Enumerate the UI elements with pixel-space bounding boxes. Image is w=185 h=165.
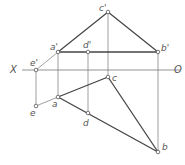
- point-c-prime: [106, 10, 110, 14]
- edge-a-b: [58, 97, 158, 152]
- point-c: [106, 75, 110, 79]
- point-e-prime: [34, 68, 38, 72]
- edge-c-b: [108, 77, 158, 152]
- axis-label-x: X: [9, 64, 18, 75]
- axis-label-o: O: [174, 64, 182, 75]
- label-a: a: [52, 99, 58, 109]
- label-c: c: [112, 73, 117, 83]
- label-a-prime: a': [50, 42, 58, 52]
- edge-c-prime-b-prime: [108, 12, 158, 52]
- label-e: e: [30, 108, 36, 118]
- label-c-prime: c': [99, 3, 106, 13]
- label-b-prime: b': [161, 43, 169, 53]
- line-e-prime-a-prime: [36, 52, 58, 70]
- projection-diagram: X O c' a' d' b' e' c a e d b: [0, 0, 185, 165]
- point-d-prime: [86, 50, 90, 54]
- edge-c-a: [58, 77, 108, 97]
- label-d-prime: d': [83, 40, 91, 50]
- point-b: [156, 150, 160, 154]
- label-e-prime: e': [30, 58, 38, 68]
- point-d: [86, 111, 90, 115]
- point-b-prime: [156, 50, 160, 54]
- label-d: d: [83, 118, 89, 128]
- label-b: b: [162, 142, 168, 152]
